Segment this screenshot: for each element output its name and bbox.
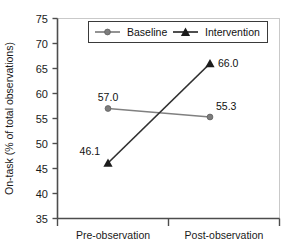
chart-figure: 75 70 65 60 55 50 45 40 35 On-task (% of… xyxy=(0,0,287,252)
baseline-point-marker-pre xyxy=(105,106,111,112)
y-axis-tick-labels: 75 70 65 60 55 50 45 40 35 xyxy=(36,13,48,225)
chart-legend: Baseline Intervention xyxy=(89,22,268,43)
y-tick-label: 70 xyxy=(36,38,48,50)
data-label-baseline-post: 55.3 xyxy=(216,100,237,112)
y-tick-label: 40 xyxy=(36,188,48,200)
data-label-baseline-pre: 57.0 xyxy=(98,91,119,103)
y-tick-label: 75 xyxy=(36,13,48,25)
y-tick-label: 65 xyxy=(36,63,48,75)
on-task-line-chart: 75 70 65 60 55 50 45 40 35 On-task (% of… xyxy=(0,0,287,252)
y-tick-label: 55 xyxy=(36,113,48,125)
x-tick-label-post: Post-observation xyxy=(185,229,264,241)
plot-area-frame xyxy=(58,19,280,219)
y-tick-label: 35 xyxy=(36,213,48,225)
y-tick-label: 60 xyxy=(36,88,48,100)
y-tick-label: 50 xyxy=(36,138,48,150)
x-axis-ticks xyxy=(58,219,280,227)
data-label-intervention-post: 66.0 xyxy=(218,57,239,69)
y-axis-title: On-task (% of total observations) xyxy=(3,42,15,195)
data-label-intervention-pre: 46.1 xyxy=(80,145,101,157)
circle-marker-icon xyxy=(105,29,111,35)
legend-label-baseline: Baseline xyxy=(127,26,167,38)
x-tick-label-pre: Pre-observation xyxy=(76,229,150,241)
legend-label-intervention: Intervention xyxy=(205,26,260,38)
y-tick-label: 45 xyxy=(36,163,48,175)
baseline-point-marker-post xyxy=(207,114,213,120)
